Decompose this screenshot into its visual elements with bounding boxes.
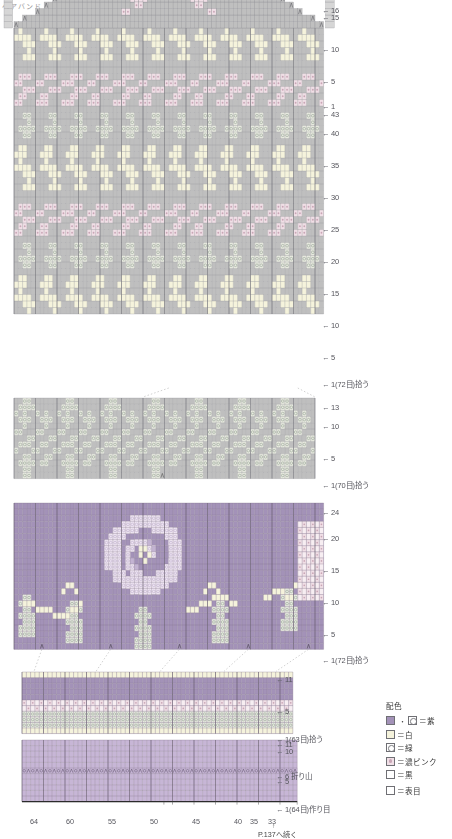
legend-row-black: ＝黒 xyxy=(386,769,437,780)
legend-row-green: ＝緑 xyxy=(386,742,437,753)
legend: 配色 ・ ＝紫 ＝白 ＝緑 ＝濃ピンク ＝黒 ＝表目 xyxy=(386,700,437,799)
legend-separator: ・ xyxy=(399,716,406,726)
legend-label-purple: ＝紫 xyxy=(419,715,435,726)
row-label-flower-1: ←1(72目)拾う xyxy=(322,654,369,665)
row-label-crown-40: ←40 xyxy=(322,129,339,138)
legend-label-white: ＝白 xyxy=(397,729,413,740)
row-label-edgelo-1: ←1(64目)作り目 xyxy=(276,803,330,814)
swatch-green-icon xyxy=(386,743,395,752)
row-label-crown-5: ←5 xyxy=(322,77,335,86)
swatch-black-icon xyxy=(386,770,395,779)
column-label-55: 55 xyxy=(108,817,116,826)
swatch-white-icon xyxy=(386,730,395,739)
row-label-crown-10b: ←10 xyxy=(322,321,339,330)
footer-marker: ↑ xyxy=(272,822,275,829)
row-label-edgeup-11: ←11 xyxy=(276,675,293,684)
swatch-purple-icon xyxy=(386,716,395,725)
row-label-edgelo-5: ←5 xyxy=(276,777,289,786)
row-label-crown-10: ←10 xyxy=(322,45,339,54)
column-label-35: 35 xyxy=(250,817,258,826)
legend-label-black: ＝黒 xyxy=(397,769,413,780)
row-label-flower-5: ←5 xyxy=(322,630,335,639)
row-label-crown-15: ←15 xyxy=(322,13,339,22)
legend-row-knit: ＝表目 xyxy=(386,785,437,796)
row-label-crown-15b: ←15 xyxy=(322,289,339,298)
row-label-crown-25: ←25 xyxy=(322,225,339,234)
row-label-flower-15: ←15 xyxy=(322,566,339,575)
row-label-edgeup-5: ←5 xyxy=(276,707,289,716)
swatch-pink-icon xyxy=(386,757,395,766)
knitting-chart-page: ヘアバンド ←16 ←15 ←10 ←5 ←1 ←43 ←40 ←35 ←30 … xyxy=(0,0,452,839)
legend-label-green: ＝緑 xyxy=(397,742,413,753)
legend-label-pink: ＝濃ピンク xyxy=(397,756,437,767)
legend-row-pink: ＝濃ピンク xyxy=(386,756,437,767)
column-label-60: 60 xyxy=(66,817,74,826)
row-label-band-5: ←5 xyxy=(322,454,335,463)
row-label-crown-35: ←35 xyxy=(322,161,339,170)
chart-canvas xyxy=(0,0,452,839)
row-label-crown-30: ←30 xyxy=(322,193,339,202)
row-label-band-13: ←13 xyxy=(322,403,339,412)
column-label-64: 64 xyxy=(30,817,38,826)
footer-note: P.137へ続く xyxy=(258,829,297,839)
column-label-50: 50 xyxy=(150,817,158,826)
column-label-45: 45 xyxy=(192,817,200,826)
legend-label-knit: ＝表目 xyxy=(397,785,421,796)
column-label-40: 40 xyxy=(234,817,242,826)
legend-title: 配色 xyxy=(386,700,437,711)
row-label-edgelo-10: ←10 xyxy=(276,747,293,756)
row-label-flower-24: ←24 xyxy=(322,508,339,517)
row-label-flower-10: ←10 xyxy=(322,598,339,607)
row-label-crown-1b: ←1(72目)拾う xyxy=(322,378,369,389)
legend-row-white: ＝白 xyxy=(386,729,437,740)
row-label-band-10: ←10 xyxy=(322,422,339,431)
row-label-crown-5b: ←5 xyxy=(322,353,335,362)
swatch-plain-icon xyxy=(386,786,395,795)
swatch-dotted-icon xyxy=(408,716,417,725)
row-label-band-1: ←1(70目)拾う xyxy=(322,479,369,490)
row-label-flower-20: ←20 xyxy=(322,534,339,543)
row-label-crown-20: ←20 xyxy=(322,257,339,266)
row-label-crown-43: ←43 xyxy=(322,110,339,119)
legend-row-purple: ・ ＝紫 xyxy=(386,715,437,726)
